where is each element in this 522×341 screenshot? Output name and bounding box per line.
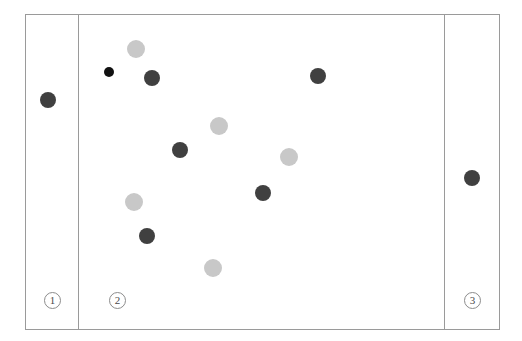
- data-point-dark: [40, 92, 56, 108]
- data-point-dark: [144, 70, 160, 86]
- panel-label-3: 3: [464, 292, 481, 309]
- panel-label-2-text: 2: [115, 295, 121, 306]
- data-point-light: [210, 117, 228, 135]
- panel-divider-2-3: [444, 14, 445, 330]
- data-point-dark: [310, 68, 326, 84]
- data-point-light: [127, 40, 145, 58]
- panel-label-1: 1: [44, 292, 61, 309]
- plot-frame: [25, 14, 500, 330]
- panel-divider-1-2: [78, 14, 79, 330]
- data-point-dark: [255, 185, 271, 201]
- data-point-dark: [139, 228, 155, 244]
- panel-label-3-text: 3: [470, 295, 476, 306]
- data-point-light: [204, 259, 222, 277]
- panel-label-2: 2: [109, 292, 126, 309]
- figure-canvas: 1 2 3: [0, 0, 522, 341]
- data-point-dark: [464, 170, 480, 186]
- data-point-dark: [172, 142, 188, 158]
- data-point-light: [280, 148, 298, 166]
- data-point-black-small: [104, 67, 114, 77]
- panel-label-1-text: 1: [50, 295, 56, 306]
- data-point-light: [125, 193, 143, 211]
